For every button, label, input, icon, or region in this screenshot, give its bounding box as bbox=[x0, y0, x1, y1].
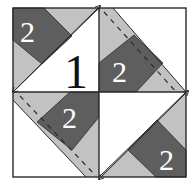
label-br-strip: 2 bbox=[159, 143, 174, 176]
quadrant-bottom-left bbox=[13, 92, 99, 177]
label-bl-strip: 2 bbox=[62, 101, 77, 134]
label-big-triangle: 1 bbox=[64, 45, 88, 98]
label-tl-strip: 2 bbox=[20, 15, 35, 48]
quilt-block-diagram: 2 1 2 2 2 bbox=[0, 0, 194, 185]
label-tr-strip: 2 bbox=[112, 55, 127, 88]
